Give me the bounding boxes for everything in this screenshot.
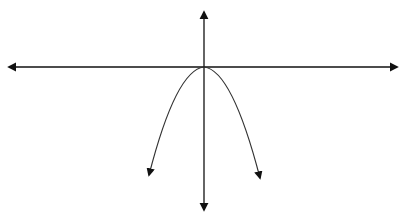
parabola-left-branch [149,67,204,175]
parabola-diagram [0,0,404,216]
parabola-right-branch [204,67,260,178]
